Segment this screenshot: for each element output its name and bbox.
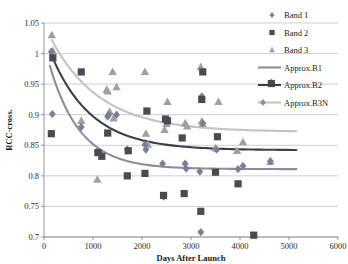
y-tick-label: 0.95 <box>24 79 39 89</box>
data-point-band-2 <box>104 129 111 136</box>
x-tick-label: 1000 <box>85 241 102 251</box>
legend-marker-band-2 <box>269 30 274 35</box>
data-point-band-2 <box>214 133 221 140</box>
legend-label-approx-b1: Approx.B1 <box>284 63 322 73</box>
chart-page: 0.70.750.80.850.90.9511.0501000200030004… <box>0 0 348 264</box>
x-axis-title: Days After Launch <box>157 253 226 263</box>
data-point-band-3 <box>141 67 149 75</box>
legend-label-band-2: Band 2 <box>284 28 308 38</box>
data-point-band-2 <box>143 107 150 114</box>
data-point-band-2 <box>141 170 148 177</box>
y-tick-label: 1 <box>35 49 39 59</box>
data-point-band-3 <box>239 138 247 146</box>
data-point-band-2 <box>250 232 257 239</box>
x-tick-label: 0 <box>42 241 46 251</box>
approximation-curves <box>50 40 296 169</box>
data-point-band-2 <box>125 147 132 154</box>
y-tick-label: 0.85 <box>24 140 39 150</box>
legend-marker-approx-b3n <box>260 99 266 106</box>
chart-legend: Band 1Band 2Band 3Approx.B1Approx.B2Appr… <box>258 10 328 108</box>
data-point-band-2 <box>49 54 56 61</box>
data-point-band-2 <box>181 190 188 197</box>
data-point-band-2 <box>124 172 131 179</box>
legend-marker-band-3 <box>269 47 275 52</box>
data-point-band-3 <box>142 129 150 137</box>
scatter-chart: 0.70.750.80.850.90.9511.0501000200030004… <box>0 0 348 264</box>
data-point-band-2 <box>48 130 55 137</box>
y-tick-label: 0.75 <box>24 201 39 211</box>
data-point-band-2 <box>212 169 219 176</box>
data-point-band-2 <box>234 180 241 187</box>
approx-curve-approx-b1 <box>50 66 296 169</box>
y-axis-title: RCC-cross. <box>4 109 14 151</box>
gridlines <box>44 23 338 237</box>
x-tick-label: 3000 <box>183 241 200 251</box>
y-tick-label: 0.7 <box>28 232 39 242</box>
legend-label-approx-b2: Approx.B2 <box>284 80 322 90</box>
data-points <box>48 31 276 239</box>
data-point-band-3 <box>163 97 171 105</box>
x-tick-label: 6000 <box>330 241 347 251</box>
y-tick-label: 1.05 <box>24 18 39 28</box>
data-point-band-2 <box>164 117 171 124</box>
y-tick-label: 0.9 <box>28 110 39 120</box>
data-point-band-2 <box>98 153 105 160</box>
data-point-band-2 <box>199 68 206 75</box>
x-tick-label: 5000 <box>281 241 298 251</box>
legend-label-band-1: Band 1 <box>284 10 308 20</box>
data-point-band-2 <box>160 192 167 199</box>
data-point-band-3 <box>214 97 222 105</box>
data-point-band-2 <box>268 80 275 87</box>
data-point-band-1 <box>197 228 204 236</box>
data-point-band-3 <box>108 67 116 75</box>
y-tick-label: 0.8 <box>28 171 39 181</box>
x-tick-label: 2000 <box>134 241 151 251</box>
data-point-band-2 <box>198 96 205 103</box>
data-point-band-2 <box>78 68 85 75</box>
legend-label-approx-b3n: Approx.B3N <box>284 98 328 108</box>
legend-marker-band-1 <box>270 12 275 18</box>
data-point-band-2 <box>179 134 186 141</box>
data-point-band-1 <box>49 110 56 118</box>
data-point-band-3 <box>48 31 56 39</box>
legend-label-band-3: Band 3 <box>284 45 308 55</box>
x-tick-label: 4000 <box>232 241 249 251</box>
data-point-band-2 <box>197 208 204 215</box>
